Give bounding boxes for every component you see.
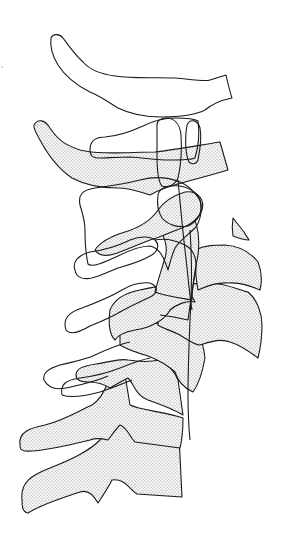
tracing-canvas	[0, 0, 282, 548]
speck-mark	[1, 66, 2, 67]
spine-tracing-figure	[0, 0, 282, 548]
occiput-outline	[51, 35, 232, 117]
vertebra-c3-lamina-stippled	[195, 245, 261, 290]
fragment-stippled	[232, 218, 249, 240]
